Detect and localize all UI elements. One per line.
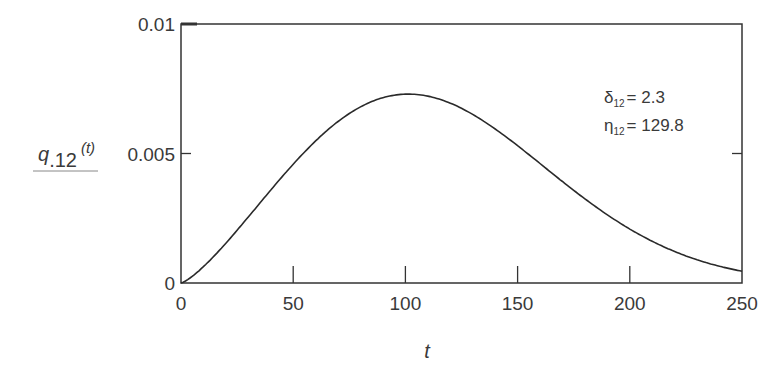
chart: 050100150200250 00.0050.01 t q.12(t) δ12… [0,0,767,374]
x-tick-label: 150 [502,293,534,314]
y-tick-label: 0 [164,273,175,294]
annotation-eta: η12= 129.8 [604,116,684,137]
y-label-subscript: .12 [49,149,77,171]
annotation-delta: δ12= 2.3 [604,88,665,109]
y-label-arg: (t) [81,139,95,156]
x-axis-label: t [424,340,431,362]
x-tick-label: 200 [614,293,646,314]
x-tick-label: 250 [726,293,758,314]
annotation-block: δ12= 2.3 η12= 129.8 [604,88,684,137]
y-tick-label: 0.01 [138,14,175,35]
svg-text:q.12(t): q.12(t) [38,139,95,171]
x-tick-label: 50 [283,293,304,314]
x-tick-label: 100 [390,293,422,314]
x-ticks [293,266,630,283]
x-tick-label: 0 [176,293,187,314]
y-tick-label: 0.005 [127,144,175,165]
y-axis-label: q.12(t) [33,139,98,171]
y-label-main: q [38,143,49,165]
x-tick-labels: 050100150200250 [176,293,758,314]
plot-area [181,24,742,283]
y-tick-labels: 00.0050.01 [127,14,175,294]
